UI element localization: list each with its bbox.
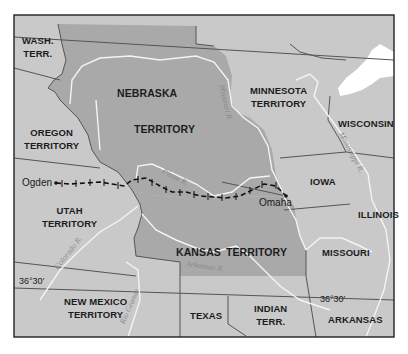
label-arkansas: ARKANSAS bbox=[328, 313, 383, 326]
latitude-label-east: 36°30′ bbox=[320, 294, 345, 304]
label-utah-territory: UTAH TERRITORY bbox=[42, 204, 97, 230]
ogden-dot bbox=[54, 181, 58, 185]
label-wisconsin: WISCONSIN bbox=[338, 117, 394, 130]
label-iowa: IOWA bbox=[310, 175, 336, 188]
label-new-mexico-territory: NEW MEXICO TERRITORY bbox=[64, 295, 127, 321]
city-omaha: Omaha bbox=[259, 197, 292, 208]
label-kansas: KANSAS bbox=[176, 246, 221, 259]
label-kansas-territory: TERRITORY bbox=[226, 246, 287, 259]
label-nebraska-territory: TERRITORY bbox=[134, 123, 195, 136]
city-ogden: Ogden bbox=[22, 177, 52, 188]
label-wash-terr: WASH. TERR. bbox=[22, 34, 54, 60]
label-nebraska: NEBRASKA bbox=[117, 87, 177, 100]
label-oregon-territory: OREGON TERRITORY bbox=[24, 126, 79, 152]
territories-map bbox=[0, 0, 408, 354]
latitude-label-west: 36°30′ bbox=[19, 276, 44, 286]
label-texas: TEXAS bbox=[190, 309, 222, 322]
label-missouri: MISSOURI bbox=[322, 246, 370, 259]
label-illinois: ILLINOIS bbox=[358, 208, 399, 221]
label-indian-terr: INDIAN TERR. bbox=[254, 302, 287, 328]
label-minnesota-territory: MINNESOTA TERRITORY bbox=[250, 84, 307, 110]
